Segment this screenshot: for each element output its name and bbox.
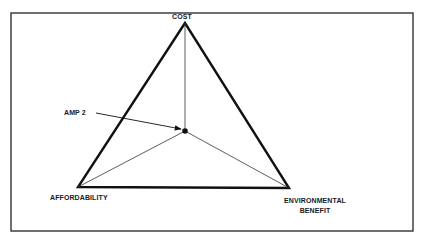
label-benefit: BENEFIT (275, 207, 355, 215)
triangle-outline (78, 23, 289, 188)
spoke-affordability (78, 131, 185, 187)
pointer-arrow (96, 113, 181, 129)
label-environmental: ENVIRONMENTAL (275, 197, 355, 205)
diagram-canvas: COST AMP 2 AFFORDABILITY ENVIRONMENTAL B… (0, 0, 421, 243)
spoke-environmental-benefit (185, 131, 289, 188)
label-affordability: AFFORDABILITY (50, 194, 108, 202)
label-cost: COST (172, 13, 192, 21)
amp2-point (182, 128, 188, 134)
label-amp2: AMP 2 (64, 109, 86, 117)
tradeoff-triangle-svg (0, 0, 421, 243)
